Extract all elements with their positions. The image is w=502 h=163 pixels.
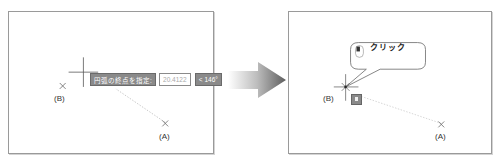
rubber-band-line <box>362 97 441 124</box>
tooltip-value-input[interactable]: 20.4122 <box>159 73 191 86</box>
tooltip-angle[interactable]: < 146° <box>195 73 222 86</box>
arrow-right-icon <box>228 62 288 98</box>
point-a-label: (A) <box>159 132 170 141</box>
point-b-marker-icon <box>60 83 66 89</box>
point-a-marker-icon <box>438 121 444 127</box>
endpoint-snap-icon <box>351 94 362 105</box>
dynamic-input-tooltip: 円弧の終点を指定: 20.4122 < 146° <box>90 73 222 86</box>
point-a-marker-icon <box>162 120 168 126</box>
mouse-left-click-icon <box>355 46 363 58</box>
drawing-canvas-before[interactable]: (B) (A) 円弧の終点を指定: 20.4122 < 146° <box>8 11 214 154</box>
point-a-label: (A) <box>435 132 446 141</box>
rubber-band-line <box>116 89 165 123</box>
tooltip-prompt: 円弧の終点を指定: <box>90 73 156 86</box>
canvas-graphics <box>289 12 491 153</box>
point-b-label: (B) <box>323 94 334 103</box>
drawing-canvas-after[interactable]: クリック (B) (A) <box>288 11 492 154</box>
callout-text: クリック <box>370 41 406 52</box>
point-b-label: (B) <box>54 94 65 103</box>
